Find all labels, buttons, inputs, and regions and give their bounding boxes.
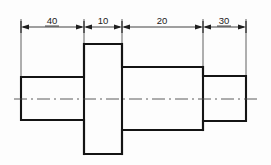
stepped-shaft-drawing: 40 10 20 30 (0, 0, 271, 165)
arrow-right-icon (195, 25, 203, 30)
arrow-left-icon (21, 25, 29, 30)
arrow-left-icon (122, 25, 130, 30)
arrow-right-icon (76, 25, 84, 30)
dimension-label-30: 30 (219, 15, 230, 26)
engineering-drawing-canvas: 40 10 20 30 (0, 0, 271, 165)
arrow-right-icon (238, 25, 246, 30)
arrow-right-icon (114, 25, 122, 30)
extension-lines-group (21, 19, 246, 79)
arrow-left-icon (84, 25, 92, 30)
dimension-label-20: 20 (157, 15, 168, 26)
dimension-label-10: 10 (98, 15, 109, 26)
dimension-label-40: 40 (47, 15, 58, 26)
arrow-left-icon (203, 25, 211, 30)
